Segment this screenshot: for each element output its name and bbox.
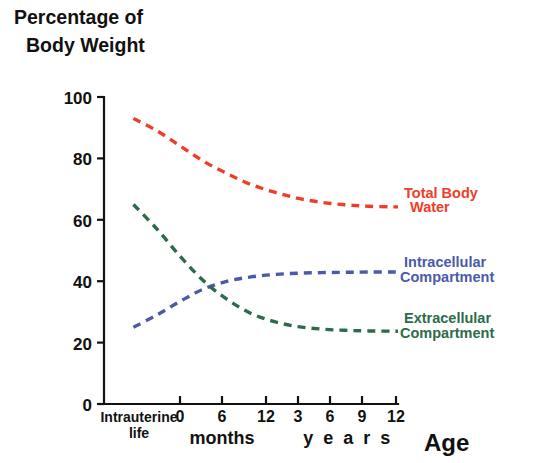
x-group-label-months: months [190,428,255,448]
chart-title-line1: Percentage of [14,6,143,28]
body-water-percentage-chart: Percentage of Body Weight 100 80 60 40 [0,0,542,463]
x-tick-label-years-6: 6 [326,408,335,425]
y-tick-label-40: 40 [73,273,92,292]
x-group-label-years: y e a r s [303,428,393,448]
legend-label-extracellular-line1: Extracellular [404,310,491,326]
x-tick-label-years-12: 12 [387,408,405,425]
x-tick-label-months-12: 12 [257,408,275,425]
y-tick-label-0: 0 [83,396,92,415]
x-tick-label-years-9: 9 [358,408,367,425]
legend-extracellular-compartment: Extracellular Compartment [400,310,494,341]
x-axis-name: Age [424,429,469,456]
y-tick-label-80: 80 [73,150,92,169]
x-tick-label-years-3: 3 [294,408,303,425]
y-tick-label-20: 20 [73,335,92,354]
legend-intracellular-compartment: Intracellular Compartment [400,254,494,285]
y-tick-label-100: 100 [64,89,92,108]
legend-label-intracellular-line1: Intracellular [404,254,487,270]
legend-label-intracellular-line2: Compartment [400,269,494,285]
intrauterine-label-line1: Intrauterine [100,409,177,425]
intrauterine-label-line2: life [129,425,149,441]
x-tick-label-months-6: 6 [218,408,227,425]
y-tick-label-60: 60 [73,212,92,231]
legend-label-total-body-water-line2: Water [410,199,450,215]
chart-title-line2: Body Weight [26,34,145,56]
chart-background [0,0,542,463]
legend-label-extracellular-line2: Compartment [400,325,494,341]
